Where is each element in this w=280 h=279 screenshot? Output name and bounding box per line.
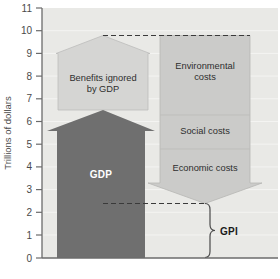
y-tick-11: 11: [22, 3, 33, 14]
y-tick-4: 4: [26, 161, 32, 172]
y-tick-6: 6: [26, 116, 32, 127]
environmental-costs-label-line1: Environmental: [175, 61, 234, 71]
y-tick-9: 9: [26, 48, 32, 59]
gdp-gpi-chart: Benefits ignored by GDP Environmental co…: [0, 0, 280, 279]
y-tick-2: 2: [26, 207, 32, 218]
y-axis-title: Trillions of dollars: [2, 96, 13, 170]
y-tick-8: 8: [26, 71, 32, 82]
gdp-arrow: [47, 110, 155, 258]
benefits-ignored-label-line1: Benefits ignored: [69, 73, 136, 83]
y-axis-tick-labels: 11 10 9 8 7 6 5 4 3 2 1 0: [21, 3, 33, 264]
environmental-costs-label-line2: costs: [194, 72, 216, 82]
y-tick-5: 5: [26, 139, 32, 150]
y-tick-3: 3: [26, 184, 32, 195]
economic-costs-label: Economic costs: [172, 163, 237, 173]
y-tick-1: 1: [26, 230, 32, 241]
benefits-ignored-label-line2: by GDP: [87, 84, 120, 94]
y-tick-10: 10: [21, 25, 33, 36]
y-tick-0: 0: [26, 253, 32, 264]
y-axis-ticks: [36, 8, 42, 258]
social-costs-label: Social costs: [180, 126, 230, 136]
gpi-label: GPI: [220, 226, 238, 237]
y-tick-7: 7: [26, 93, 32, 104]
gdp-label: GDP: [90, 169, 113, 180]
